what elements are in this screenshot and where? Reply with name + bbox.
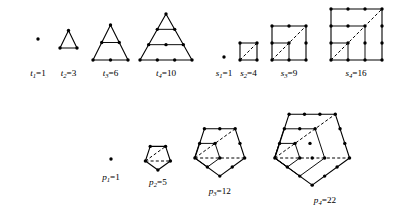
dot [255, 58, 258, 61]
dot [144, 159, 147, 162]
dot [231, 165, 234, 168]
dot [304, 41, 307, 44]
dot [169, 159, 172, 162]
pentagonal-figure-1: p1=1 [101, 157, 120, 183]
dot [164, 145, 167, 148]
dot [363, 7, 366, 10]
dot [218, 156, 221, 159]
square-caption-1: s1=1 [216, 68, 233, 79]
dot [190, 58, 193, 61]
dot [346, 24, 349, 27]
dot [218, 127, 221, 130]
dot [238, 58, 241, 61]
dot [380, 58, 383, 61]
diagonal-dashed-line [331, 9, 382, 60]
dot [303, 113, 306, 116]
pentagon-outline-inner [275, 143, 300, 167]
dot [156, 168, 159, 171]
dot [298, 174, 301, 177]
dot [213, 142, 216, 145]
dot [313, 127, 316, 130]
triangular-figure-2: t2=3 [58, 29, 78, 79]
dot [323, 174, 326, 177]
dot [287, 113, 290, 116]
dot [255, 41, 258, 44]
dot [238, 41, 241, 44]
dot [203, 127, 206, 130]
square-figure-4: s4=16 [329, 7, 383, 79]
dot [318, 113, 321, 116]
dot [156, 28, 159, 31]
dot [147, 43, 150, 46]
dot [348, 156, 351, 159]
dot [287, 24, 290, 27]
dot [346, 58, 349, 61]
dot [287, 58, 290, 61]
dot [334, 113, 337, 116]
dot [109, 23, 112, 26]
dot [206, 165, 209, 168]
pentagonal-caption-1: p1=1 [101, 172, 120, 183]
dot [75, 46, 78, 49]
figurate-numbers-figure: t1=1 t2=3 t3=6 [0, 0, 399, 219]
dot [329, 58, 332, 61]
dot [298, 156, 301, 159]
dot [278, 142, 281, 145]
dot [363, 58, 366, 61]
dot [36, 37, 39, 40]
dot [234, 127, 237, 130]
dot [182, 43, 185, 46]
dot [323, 156, 326, 159]
dot [287, 41, 290, 44]
dot [335, 165, 338, 168]
dot [283, 127, 286, 130]
dot [270, 24, 273, 27]
dot [164, 12, 167, 15]
dot [138, 58, 141, 61]
dot [156, 58, 159, 61]
pentagon-outline-inner [195, 143, 220, 167]
square-figure-1: s1=1 [216, 55, 233, 79]
dot [118, 41, 121, 44]
dot [109, 157, 112, 160]
square-caption-4: s4=16 [345, 68, 367, 79]
dot [198, 142, 201, 145]
diagonal-dashed-line [275, 114, 335, 158]
diagonal-dashed-line [145, 146, 165, 161]
square-caption-2: s2=4 [240, 68, 257, 79]
figure-canvas: t1=1 t2=3 t3=6 [0, 0, 399, 219]
pentagonal-figure-2: p2=5 [144, 145, 172, 188]
dot [238, 142, 241, 145]
dot [270, 58, 273, 61]
triangular-figure-1: t1=1 [30, 37, 46, 79]
dot [311, 156, 314, 159]
dot [67, 29, 70, 32]
triangular-figure-4: t4=10 [138, 12, 193, 79]
triangular-caption-1: t1=1 [30, 68, 46, 79]
dot [91, 58, 94, 61]
dot [380, 24, 383, 27]
dot [311, 183, 314, 186]
dot [58, 46, 61, 49]
triangular-number-row: t1=1 t2=3 t3=6 [30, 12, 194, 79]
square-figure-3: s3=9 [270, 24, 307, 79]
dot [273, 156, 276, 159]
dot [380, 7, 383, 10]
dot [173, 28, 176, 31]
pentagonal-figure-3: p3=12 [193, 127, 246, 197]
triangular-figure-3: t3=6 [91, 23, 129, 79]
dot [304, 58, 307, 61]
dot [304, 24, 307, 27]
dot [380, 41, 383, 44]
dot [363, 24, 366, 27]
pentagon-outline-outer [275, 114, 350, 185]
dot [343, 142, 346, 145]
dot [126, 58, 129, 61]
triangular-caption-4: t4=10 [156, 68, 177, 79]
square-number-row: s1=1 s2=4 s3=9 [216, 7, 384, 79]
pentagon-outline [145, 146, 170, 170]
dot [270, 41, 273, 44]
diagonal-dashed-line [240, 43, 257, 60]
dot [243, 156, 246, 159]
square-caption-3: s3=9 [281, 68, 298, 79]
